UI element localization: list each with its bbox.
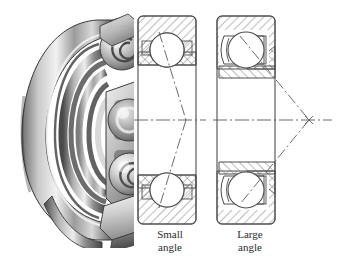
figure-container: Small angle Large angle xyxy=(0,0,337,262)
caption-small-angle: Small angle xyxy=(128,228,212,254)
diagram-large-angle xyxy=(0,0,337,262)
ball-bottom-large xyxy=(228,172,264,208)
caption-large-angle: Large angle xyxy=(208,228,292,254)
ball-top-large xyxy=(228,32,264,68)
